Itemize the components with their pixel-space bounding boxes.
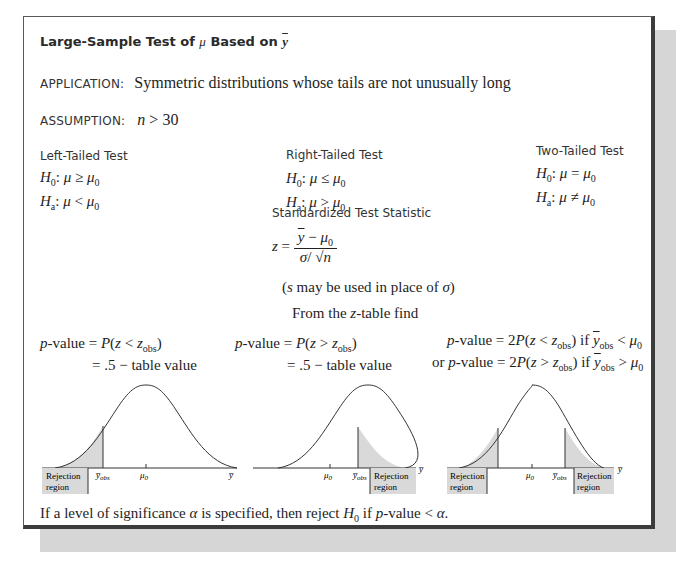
box-title: Large-Sample Test of μ Based on y: [40, 34, 288, 50]
two-tailed-plot: Rejection region μ0 y̅obs Rejection regi…: [447, 385, 623, 494]
svg-text:region: region: [46, 482, 69, 492]
svg-text:Rejection: Rejection: [46, 471, 81, 481]
svg-text:y̅obs: y̅obs: [352, 470, 367, 482]
conclusion-text: If a level of significance α is specifie…: [40, 505, 448, 524]
application-text: Symmetric distributions whose tails are …: [134, 74, 510, 91]
assumption-label: ASSUMPTION:: [40, 114, 125, 128]
left-h0: H0: μ ≥ μ0: [40, 168, 100, 192]
left-ha: Ha: μ < μ0: [40, 192, 100, 216]
right-tailed-plot: μ0 y̅obs Rejection region y̅: [253, 385, 424, 494]
z-fraction: y − μ0 σ/ √n: [294, 229, 337, 266]
svg-text:Rejection: Rejection: [577, 471, 612, 481]
application-label: APPLICATION:: [40, 77, 124, 91]
left-pvalue: p-value = P(z < zobs) = .5 − table value: [40, 335, 197, 374]
two-hypotheses: H0: μ = μ0 Ha: μ ≠ μ0: [536, 164, 596, 212]
svg-text:y̅obs: y̅obs: [552, 470, 567, 482]
rejection-plots: Rejection region y̅obs μ0 y̅ μ0 y̅obs Re…: [24, 372, 652, 497]
table-hint: From the z-table find: [292, 305, 418, 322]
svg-text:μ0: μ0: [525, 470, 535, 482]
assumption-row: ASSUMPTION: n > 30: [40, 111, 178, 129]
left-tailed-plot: Rejection region y̅obs μ0 y̅: [42, 385, 237, 494]
svg-text:Rejection: Rejection: [450, 471, 485, 481]
svg-text:y̅obs: y̅obs: [95, 470, 110, 482]
svg-text:μ0: μ0: [323, 470, 333, 482]
z-formula: z = y − μ0 σ/ √n: [272, 229, 337, 266]
assumption-text: n > 30: [137, 111, 178, 128]
svg-text:μ0: μ0: [139, 470, 149, 482]
svg-text:region: region: [577, 482, 600, 492]
right-tailed-heading: Right-Tailed Test: [286, 148, 383, 162]
two-tailed-heading: Two-Tailed Test: [536, 144, 624, 158]
statistic-heading: Standardized Test Statistic: [272, 206, 431, 220]
s-note: (s may be used in place of σ): [282, 279, 455, 296]
svg-text:Rejection: Rejection: [374, 471, 409, 481]
left-hypotheses: H0: μ ≥ μ0 Ha: μ < μ0: [40, 168, 100, 216]
svg-text:y̅: y̅: [228, 470, 234, 480]
right-h0: H0: μ ≤ μ0: [286, 169, 346, 193]
application-row: APPLICATION: Symmetric distributions who…: [40, 74, 511, 92]
right-pvalue: p-value = P(z > zobs) = .5 − table value: [235, 335, 392, 374]
summary-box: Large-Sample Test of μ Based on y APPLIC…: [23, 16, 655, 529]
svg-text:region: region: [450, 482, 473, 492]
svg-text:y̅: y̅: [617, 464, 623, 474]
two-pvalue: p-value = 2P(z < zobs) if yobs < μ0 or p…: [432, 332, 642, 376]
svg-text:region: region: [374, 482, 397, 492]
svg-text:y̅: y̅: [418, 464, 424, 474]
two-ha: Ha: μ ≠ μ0: [536, 188, 596, 212]
two-h0: H0: μ = μ0: [536, 164, 596, 188]
left-tailed-heading: Left-Tailed Test: [40, 149, 128, 163]
